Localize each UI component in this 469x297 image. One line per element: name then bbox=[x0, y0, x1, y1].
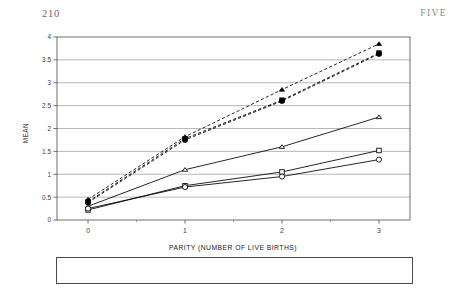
series-line bbox=[88, 117, 379, 206]
series-line bbox=[88, 44, 379, 200]
y-tick-label: 1.5 bbox=[42, 148, 51, 155]
data-point-filled-circle bbox=[376, 51, 381, 56]
x-axis-tick-labels: 0123 bbox=[86, 227, 381, 234]
series-lines bbox=[88, 44, 379, 210]
data-point-filled-circle bbox=[279, 98, 284, 103]
data-point-filled-circle bbox=[85, 200, 90, 205]
y-tick-label: 2 bbox=[47, 125, 51, 132]
series-line bbox=[88, 160, 379, 209]
data-point-filled-circle bbox=[182, 137, 187, 142]
x-tick-label: 2 bbox=[280, 227, 284, 234]
data-point-open-circle bbox=[182, 185, 187, 190]
grid-lines bbox=[57, 60, 410, 197]
data-point-open-circle bbox=[279, 174, 284, 179]
y-axis-ticks bbox=[54, 37, 58, 220]
y-tick-label: 0 bbox=[47, 216, 51, 223]
x-tick-label: 3 bbox=[377, 227, 381, 234]
y-tick-label: 1 bbox=[47, 171, 51, 178]
y-tick-label: 3.5 bbox=[42, 56, 51, 63]
y-tick-label: 3 bbox=[47, 79, 51, 86]
y-tick-label: 4 bbox=[47, 33, 51, 40]
series-line bbox=[88, 150, 379, 209]
series-line bbox=[88, 53, 379, 202]
y-axis-title: MEAN bbox=[22, 123, 29, 143]
y-axis-tick-labels: 00.511.522.533.54 bbox=[42, 33, 51, 223]
x-tick-label: 1 bbox=[183, 227, 187, 234]
data-point-open-circle bbox=[376, 157, 381, 162]
data-point-open-square bbox=[280, 170, 285, 175]
series-markers bbox=[85, 42, 381, 212]
data-point-filled-triangle bbox=[376, 42, 381, 46]
y-tick-label: 0.5 bbox=[42, 194, 51, 201]
data-point-filled-triangle bbox=[279, 88, 284, 92]
data-point-open-square bbox=[377, 148, 382, 153]
data-point-open-triangle bbox=[376, 115, 381, 119]
chart-legend bbox=[56, 257, 413, 284]
x-tick-label: 0 bbox=[86, 227, 90, 234]
x-axis-title: PARITY (NUMBER OF LIVE BIRTHS) bbox=[169, 244, 297, 252]
y-tick-label: 2.5 bbox=[42, 102, 51, 109]
chart-canvas: 00.511.522.533.54 0123 MEAN PARITY (NUMB… bbox=[0, 0, 469, 297]
data-point-open-circle bbox=[85, 206, 90, 211]
x-axis-ticks bbox=[88, 220, 379, 224]
figure-line-chart: 00.511.522.533.54 0123 MEAN PARITY (NUMB… bbox=[0, 0, 469, 297]
